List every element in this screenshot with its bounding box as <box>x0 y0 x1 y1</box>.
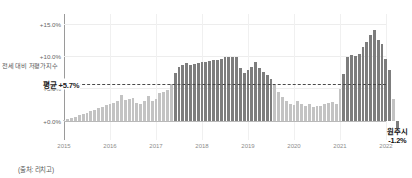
bar <box>270 79 273 120</box>
bar <box>181 65 184 121</box>
bar <box>339 89 342 121</box>
average-line <box>42 84 386 85</box>
x-tick-2016: 2016 <box>103 143 116 149</box>
bar <box>254 62 257 120</box>
x-tick-2017: 2017 <box>149 143 162 149</box>
bar <box>250 67 253 121</box>
bar <box>331 102 334 121</box>
bar <box>155 99 158 121</box>
bar <box>147 96 150 121</box>
bar <box>170 84 173 120</box>
final-point-callout: 원주시 -1.2% <box>379 127 412 145</box>
bar <box>350 55 353 120</box>
bar <box>120 95 123 120</box>
bar <box>135 103 138 121</box>
plot-area: +15.0%+10.0%+5.0%+0.0% 20152016201720182… <box>64 14 386 140</box>
bar <box>220 59 223 121</box>
bar <box>139 104 142 121</box>
bar <box>124 100 127 121</box>
bar <box>316 106 319 120</box>
bar <box>373 30 376 120</box>
callout-region-label: 원주시 <box>379 127 412 136</box>
bar <box>381 44 384 120</box>
bar <box>204 62 207 120</box>
bar <box>224 57 227 120</box>
bar <box>97 108 100 120</box>
y-tick-+15.0%: +15.0% <box>40 20 61 27</box>
bar <box>262 72 265 120</box>
bar <box>86 113 89 121</box>
y-tick-+0.0%: +0.0% <box>43 117 61 124</box>
bar <box>239 68 242 120</box>
bar <box>369 35 372 121</box>
bar <box>323 104 326 121</box>
bar <box>162 92 165 121</box>
bar <box>158 93 161 121</box>
bar <box>258 68 261 121</box>
bar <box>308 104 311 120</box>
bar <box>335 104 338 120</box>
x-tick-2018: 2018 <box>195 143 208 149</box>
bar <box>377 40 380 120</box>
bar <box>185 63 188 121</box>
bar <box>392 99 395 120</box>
bar <box>273 85 276 121</box>
bar <box>105 105 108 121</box>
bar <box>193 64 196 120</box>
bar <box>319 106 322 121</box>
bar <box>304 106 307 120</box>
bar <box>212 60 215 121</box>
bar <box>189 65 192 121</box>
bar <box>201 62 204 121</box>
bar <box>143 101 146 120</box>
bar <box>342 74 345 121</box>
bar <box>281 97 284 120</box>
source-note: (출처: 리치고) <box>18 165 54 174</box>
bar <box>243 73 246 121</box>
bar <box>109 104 112 121</box>
x-tick-2021: 2021 <box>333 143 346 149</box>
bar <box>132 98 135 121</box>
y-tick-+10.0%: +10.0% <box>40 53 61 60</box>
bar <box>151 101 154 121</box>
bar <box>166 90 169 121</box>
bar <box>346 57 349 121</box>
bar <box>285 101 288 120</box>
bar <box>101 107 104 121</box>
bar <box>312 107 315 121</box>
bar <box>327 103 330 121</box>
callout-value-label: -1.2% <box>379 136 412 145</box>
bar <box>197 63 200 121</box>
zero-baseline <box>64 121 386 122</box>
bar <box>296 101 299 120</box>
y-axis-title: 전세 대비 저평가지수 <box>2 62 58 70</box>
bar <box>174 73 177 120</box>
bar <box>89 111 92 121</box>
bar <box>277 92 280 120</box>
bar <box>365 42 368 121</box>
bar <box>388 70 391 121</box>
x-tick-2019: 2019 <box>241 143 254 149</box>
bar <box>235 57 238 121</box>
bar <box>231 57 234 120</box>
bar <box>227 57 230 121</box>
bar <box>216 60 219 121</box>
bar <box>112 103 115 121</box>
bar <box>116 101 119 120</box>
bar <box>128 99 131 120</box>
bar <box>289 104 292 121</box>
bar <box>358 54 361 121</box>
bar <box>208 61 211 120</box>
bar <box>384 59 387 120</box>
bar <box>266 75 269 120</box>
bar <box>178 67 181 121</box>
bar <box>293 105 296 121</box>
bar <box>247 70 250 120</box>
bar <box>93 110 96 121</box>
bar <box>354 56 357 121</box>
x-tick-2015: 2015 <box>57 143 70 149</box>
x-tick-2020: 2020 <box>287 143 300 149</box>
bar <box>300 104 303 120</box>
average-line-label: 평균 +5.7% <box>42 78 80 89</box>
